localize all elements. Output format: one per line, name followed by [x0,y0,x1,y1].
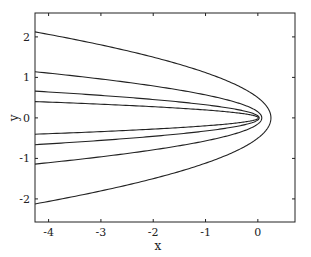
x-tick-label: -1 [200,226,211,239]
x-tick-label: 0 [254,226,261,239]
x-tick-label: -4 [43,226,54,239]
y-tick-label: -2 [19,193,30,206]
plot-frame [35,13,295,222]
parabola-curve-1 [35,72,262,164]
parabola-chart: -4-3-2-10 -2-1012 x y [0,0,311,257]
curve-group [35,32,271,204]
parabola-curve-0 [35,32,271,204]
parabola-curve-3 [35,102,258,135]
x-axis-label: x [155,239,162,253]
y-tick-label: 1 [23,71,30,84]
x-tick-label: -3 [96,226,107,239]
y-axis-ticks: -2-1012 [19,31,295,206]
y-tick-label: 2 [23,31,30,44]
y-tick-label: 0 [23,112,30,125]
y-tick-label: -1 [19,152,30,165]
y-axis-label: y [7,114,21,122]
x-axis-ticks: -4-3-2-10 [43,13,261,239]
x-tick-label: -2 [148,226,159,239]
